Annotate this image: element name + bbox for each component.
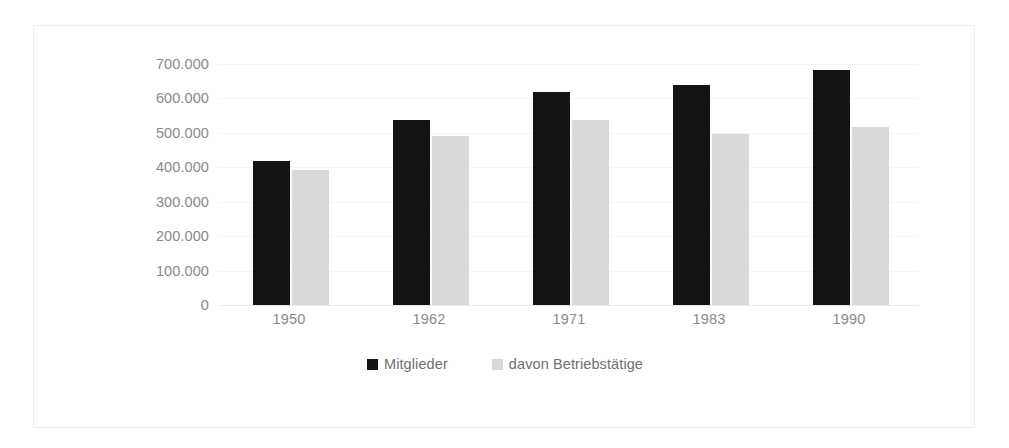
bar-group	[393, 64, 469, 305]
bar-1990-series-1	[852, 127, 889, 305]
x-axis-tick-label: 1971	[509, 311, 629, 327]
legend-label: Mitglieder	[384, 356, 448, 372]
x-axis-tick-label: 1950	[229, 311, 349, 327]
bar-1950-series-1	[292, 170, 329, 305]
chart-container: 700.000600.000500.000400.000300.000200.0…	[33, 25, 975, 428]
bar-1990-series-0	[813, 70, 850, 305]
bar-1983-series-1	[712, 134, 749, 305]
y-axis-tick-label: 600.000	[119, 90, 209, 106]
plot-area	[219, 64, 919, 305]
bar-1962-series-0	[393, 120, 430, 305]
y-axis-tick-label: 500.000	[119, 125, 209, 141]
bar-1962-series-1	[432, 136, 469, 305]
y-axis-tick-label: 200.000	[119, 228, 209, 244]
bar-group	[533, 64, 609, 305]
bar-1971-series-0	[533, 92, 570, 305]
bar-group	[813, 64, 889, 305]
y-axis: 700.000600.000500.000400.000300.000200.0…	[119, 64, 209, 305]
bar-group	[673, 64, 749, 305]
x-axis: 19501962197119831990	[219, 311, 919, 337]
bar-1983-series-0	[673, 85, 710, 305]
legend-item[interactable]: davon Betriebstätige	[492, 356, 643, 372]
bar-group	[253, 64, 329, 305]
y-axis-tick-label: 100.000	[119, 263, 209, 279]
y-axis-tick-label: 400.000	[119, 159, 209, 175]
legend-label: davon Betriebstätige	[509, 356, 643, 372]
chart-legend: Mitgliederdavon Betriebstätige	[34, 356, 976, 372]
y-axis-tick-label: 0	[119, 297, 209, 313]
x-axis-tick-label: 1990	[789, 311, 909, 327]
y-axis-tick-label: 300.000	[119, 194, 209, 210]
axis-baseline	[219, 305, 919, 306]
bar-1971-series-1	[572, 120, 609, 305]
legend-swatch-icon	[492, 359, 503, 370]
y-axis-tick-label: 700.000	[119, 56, 209, 72]
legend-swatch-icon	[367, 359, 378, 370]
x-axis-tick-label: 1962	[369, 311, 489, 327]
x-axis-tick-label: 1983	[649, 311, 769, 327]
legend-item[interactable]: Mitglieder	[367, 356, 448, 372]
bar-1950-series-0	[253, 161, 290, 305]
